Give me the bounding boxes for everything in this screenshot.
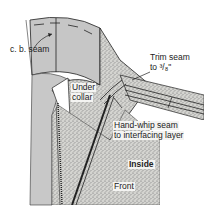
trim-seam-label-line1: Trim seam bbox=[150, 53, 190, 62]
cb-seam-label: c. b. seam bbox=[10, 45, 49, 54]
front-label: Front bbox=[113, 182, 135, 191]
under-collar-label-line2: collar bbox=[71, 93, 93, 102]
lapel bbox=[120, 75, 204, 120]
hand-whip-label-line1: Hand-whip seam bbox=[113, 121, 179, 130]
under-collar-label-line1: Under bbox=[71, 83, 96, 92]
trim-seam-label-line2: to ³/₈" bbox=[150, 63, 171, 72]
hand-whip-label-line2: to interfacing layer bbox=[113, 131, 184, 140]
collar-diagram bbox=[0, 0, 204, 216]
inside-label: Inside bbox=[128, 160, 155, 169]
